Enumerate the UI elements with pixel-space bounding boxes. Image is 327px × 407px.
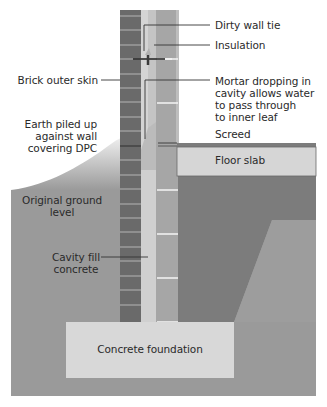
label-floor-slab: Floor slab <box>215 154 265 166</box>
inner-leaf-shadow <box>176 10 179 143</box>
label-insulation: Insulation <box>215 39 265 51</box>
label-screed: Screed <box>215 128 251 140</box>
cavity-wall-diagram: Dirty wall tie Insulation Mortar droppin… <box>0 0 327 407</box>
insulation-board <box>148 10 156 138</box>
label-earth-piled: Earth piled up against wall covering DPC <box>25 118 97 154</box>
screed <box>177 143 316 147</box>
label-concrete-foundation: Concrete foundation <box>66 343 234 355</box>
cavity-fill-concrete <box>141 170 156 322</box>
label-original-ground: Original ground level <box>22 194 102 218</box>
label-brick-outer-skin: Brick outer skin <box>18 74 98 86</box>
brick-outer-skin <box>120 10 141 322</box>
label-dirty-wall-tie: Dirty wall tie <box>215 19 280 31</box>
label-cavity-fill: Cavity fill concrete <box>50 251 102 275</box>
label-mortar-dropping: Mortar dropping in cavity allows water t… <box>215 75 314 123</box>
inner-leaf <box>156 10 178 322</box>
